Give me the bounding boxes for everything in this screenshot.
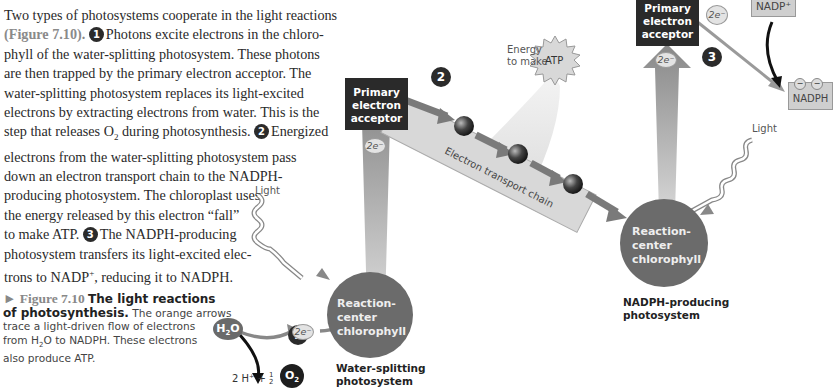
energy-text: Energy [507, 44, 548, 56]
water-splitting-photosystem-label: Water-splitting photosystem [336, 362, 426, 388]
negative-charge-icon: − [811, 78, 823, 90]
subscript: 2 [294, 376, 299, 384]
acceptor-label: Primary [345, 86, 408, 99]
h2o-text: O [230, 322, 239, 335]
psys-label: NADPH-producing [623, 296, 729, 309]
rc-label: chlorophyll [337, 325, 413, 339]
products-label: 2 H⁺ + 12 [232, 372, 274, 386]
diagram-step-3: 3 [702, 47, 722, 67]
electron-carrier-1 [454, 116, 474, 136]
rc-label: Reaction- [632, 225, 708, 239]
light-label-right: Light [752, 123, 777, 135]
acceptor-label: electron [345, 99, 408, 112]
electron-pair-to-nadp: 2e⁻ [706, 5, 728, 25]
electron-carrier-2 [508, 144, 528, 164]
nadph-text: NADPH [793, 93, 829, 104]
electron-pair-from-water: 2e⁻ [292, 324, 314, 340]
rc-label: chlorophyll [632, 253, 708, 267]
psys-label: Water-splitting [336, 362, 426, 375]
light-label-left: Light [255, 185, 280, 197]
rc-label: center [632, 239, 708, 253]
psys-label: photosystem [336, 375, 426, 388]
diagram-step-2: 2 [431, 67, 451, 87]
rc-label: center [337, 311, 413, 325]
electron-carrier-3 [563, 174, 583, 194]
right-primary-electron-acceptor: Primary electron acceptor [636, 0, 699, 46]
left-primary-electron-acceptor: Primary electron acceptor [345, 78, 408, 130]
acceptor-label: acceptor [345, 112, 408, 125]
psys-label: photosystem [623, 309, 729, 322]
frac-den: 2 [269, 378, 273, 386]
o2-text: O [285, 369, 294, 382]
electron-pair-left-arrow: 2e⁻ [364, 138, 386, 154]
nadp-plus-box: NADP⁺ [751, 0, 796, 17]
etc-box [381, 95, 596, 232]
atp-label: ATP [545, 55, 563, 67]
acceptor-label: Primary [636, 2, 699, 15]
negative-charge-icon: − [794, 78, 806, 90]
electron-pair-right-arrow: 2e⁻ [655, 52, 677, 68]
water-molecule: H2O [213, 318, 243, 340]
acceptor-label: electron [636, 15, 699, 28]
acceptor-label: acceptor [636, 28, 699, 41]
energy-text: to make [507, 56, 548, 68]
energy-to-make-label: Energy to make [507, 44, 548, 68]
light-wave-right [690, 140, 752, 212]
oxygen-molecule: O2 [280, 364, 304, 388]
right-reaction-center-chlorophyll: Reaction- center chlorophyll [620, 199, 708, 287]
proton-text: 2 H⁺ + [232, 373, 266, 384]
light-wave-left [254, 195, 302, 278]
left-reaction-center-chlorophyll: Reaction- center chlorophyll [327, 272, 413, 358]
rc-label: Reaction- [337, 297, 413, 311]
nadph-producing-photosystem-label: NADPH-producing photosystem [623, 296, 729, 322]
